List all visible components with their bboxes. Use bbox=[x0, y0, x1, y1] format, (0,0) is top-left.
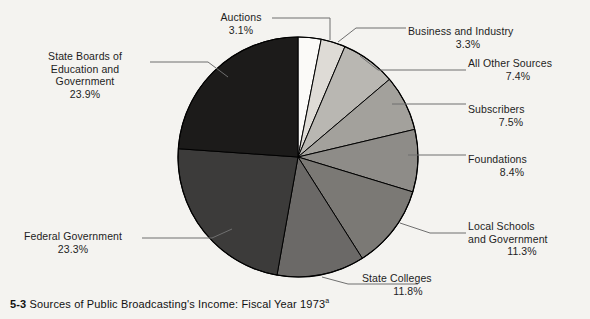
callout-auctions-name: Auctions bbox=[220, 11, 261, 23]
callout-all-other-sources-value: 7.4% bbox=[468, 70, 568, 83]
callout-business-and-industry: Business and Industry 3.3% bbox=[408, 25, 578, 50]
callout-auctions: Auctions 3.1% bbox=[198, 11, 284, 36]
callout-all-other-sources: All Other Sources 7.4% bbox=[468, 57, 586, 82]
callout-federal-government-name: Federal Government bbox=[24, 230, 122, 242]
callout-foundations-name: Foundations bbox=[468, 153, 527, 165]
callout-foundations-value: 8.4% bbox=[468, 166, 556, 179]
pie-chart-figure: Auctions 3.1% State Boards of Education … bbox=[0, 0, 590, 319]
callout-subscribers: Subscribers 7.5% bbox=[468, 103, 586, 128]
callout-state-colleges-name: State Colleges bbox=[362, 272, 432, 284]
callout-subscribers-value: 7.5% bbox=[468, 116, 554, 129]
figure-caption-text: Sources of Public Broadcasting's Income:… bbox=[30, 298, 326, 310]
callout-auctions-value: 3.1% bbox=[198, 24, 284, 37]
figure-caption: 5-3 Sources of Public Broadcasting's Inc… bbox=[10, 297, 329, 310]
figure-footnote-marker: a bbox=[325, 297, 329, 304]
figure-number: 5-3 bbox=[10, 298, 26, 310]
callout-state-boards-line1: State Boards of bbox=[48, 50, 122, 62]
callout-subscribers-name: Subscribers bbox=[468, 103, 525, 115]
callout-state-boards: State Boards of Education and Government… bbox=[22, 50, 148, 100]
callout-local-schools-line1: Local Schools bbox=[468, 220, 535, 232]
callout-state-colleges-value: 11.8% bbox=[362, 285, 454, 298]
callout-state-boards-line2: Education and bbox=[51, 63, 119, 75]
callout-local-schools: Local Schools and Government 11.3% bbox=[468, 220, 588, 258]
callout-business-and-industry-name: Business and Industry bbox=[408, 25, 513, 37]
callout-foundations: Foundations 8.4% bbox=[468, 153, 586, 178]
pie-slice bbox=[178, 37, 298, 157]
callout-business-and-industry-value: 3.3% bbox=[408, 38, 528, 51]
callout-state-boards-value: 23.9% bbox=[22, 88, 148, 101]
leader-line-local-schools bbox=[400, 223, 466, 233]
callout-federal-government-value: 23.3% bbox=[6, 243, 140, 256]
pie-slice-group bbox=[178, 37, 418, 277]
callout-local-schools-line2: and Government bbox=[468, 233, 548, 245]
callout-all-other-sources-name: All Other Sources bbox=[468, 57, 552, 69]
callout-local-schools-value: 11.3% bbox=[468, 245, 576, 258]
callout-state-boards-line3: Government bbox=[56, 75, 115, 87]
leader-line-business bbox=[338, 28, 406, 42]
callout-federal-government: Federal Government 23.3% bbox=[6, 230, 140, 255]
callout-state-colleges: State Colleges 11.8% bbox=[362, 272, 474, 297]
leader-line-all-other bbox=[360, 56, 466, 70]
pie-slice bbox=[178, 149, 298, 275]
